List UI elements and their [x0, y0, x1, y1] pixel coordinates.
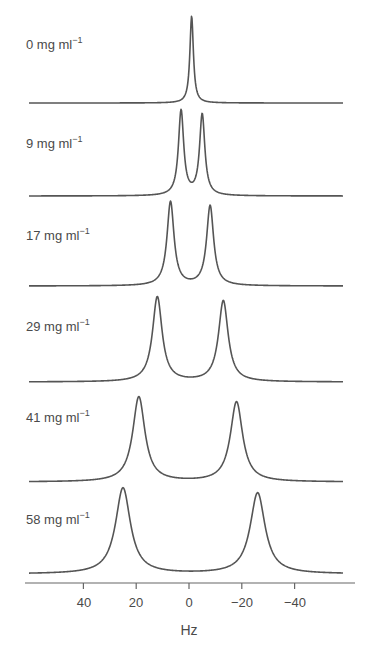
series-label-superscript: −1 — [79, 317, 89, 327]
series-label-superscript: −1 — [79, 408, 89, 418]
x-tick-label-20: 20 — [129, 595, 143, 610]
spectrum-trace — [29, 16, 343, 103]
spectrum-trace — [29, 109, 343, 196]
series-label-superscript: −1 — [72, 35, 82, 45]
series-label-superscript: −1 — [72, 134, 82, 144]
spectrum-trace — [29, 201, 343, 286]
series-label-29: 29 mg ml−1 — [26, 319, 90, 333]
x-axis-title: Hz — [180, 622, 197, 638]
series-label-superscript: −1 — [79, 226, 89, 236]
series-label-text: 9 mg ml — [26, 136, 72, 151]
series-label-58: 58 mg ml−1 — [26, 512, 90, 526]
x-tick-label-0: 0 — [185, 595, 192, 610]
series-label-9: 9 mg ml−1 — [26, 136, 83, 150]
series-label-text: 0 mg ml — [26, 37, 72, 52]
x-tick-label-40: 40 — [77, 595, 91, 610]
series-label-41: 41 mg ml−1 — [26, 410, 90, 424]
series-label-17: 17 mg ml−1 — [26, 228, 90, 242]
series-label-text: 29 mg ml — [26, 319, 79, 334]
spectrum-trace — [29, 488, 343, 573]
series-label-text: 17 mg ml — [26, 228, 79, 243]
series-label-text: 41 mg ml — [26, 410, 79, 425]
spectrum-trace — [29, 296, 343, 381]
series-label-0: 0 mg ml−1 — [26, 37, 83, 51]
series-label-text: 58 mg ml — [26, 512, 79, 527]
series-label-superscript: −1 — [79, 510, 89, 520]
x-tick-label-neg40: −40 — [284, 595, 306, 610]
nmr-stacked-spectra-figure: 0 mg ml−1 9 mg ml−1 17 mg ml−1 29 mg ml−… — [0, 0, 371, 661]
x-tick-label-neg20: −20 — [231, 595, 253, 610]
